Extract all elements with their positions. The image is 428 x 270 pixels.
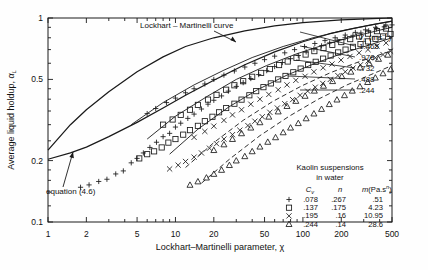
marker-plus — [191, 86, 196, 91]
marker-cross — [191, 135, 196, 140]
marker-triangle — [302, 93, 308, 98]
marker-plus — [286, 197, 291, 202]
legend-row: .244.1428.6 — [286, 220, 383, 229]
y-tick-label: 0.1 — [31, 217, 43, 227]
x-tick-label: 10 — [171, 229, 181, 239]
marker-cross — [207, 146, 212, 151]
chart-figure: 125102050100200500 0.10.20.51 Lockhart –… — [0, 0, 428, 270]
marker-plus — [264, 68, 269, 73]
marker-square — [166, 140, 171, 145]
marker-cross — [199, 150, 204, 155]
marker-cross — [260, 114, 265, 119]
marker-cross — [297, 93, 302, 98]
legend-title-line1: Kaolin suspensions — [296, 163, 363, 172]
marker-plus — [272, 54, 277, 59]
x-tick-label: 5 — [135, 229, 140, 239]
velocity-labels: VL (ms−1)1.465.976.732.488.244 — [358, 32, 391, 95]
y-tick-label: 1 — [38, 13, 43, 23]
annotation-arrow-head — [231, 37, 237, 42]
lockhart-martinelli-curve-label: Lockhart – Martinelli curve — [140, 21, 234, 30]
marker-plus — [154, 140, 159, 145]
marker-triangle — [303, 115, 309, 120]
marker-square — [159, 145, 164, 150]
marker-square — [145, 152, 150, 157]
marker-cross — [202, 129, 207, 134]
marker-plus — [389, 22, 394, 27]
marker-cross — [214, 141, 219, 146]
marker-cross — [167, 166, 172, 171]
marker-plus — [219, 93, 224, 98]
marker-cross — [248, 102, 253, 107]
marker-cross — [302, 74, 307, 79]
x-tick-label: 1 — [46, 229, 51, 239]
marker-plus — [167, 131, 172, 136]
marker-plus — [292, 47, 297, 52]
marker-triangle — [233, 158, 239, 163]
marker-triangle — [288, 125, 294, 130]
marker-square — [181, 132, 186, 137]
marker-plus — [282, 50, 287, 55]
reference-curve — [48, 18, 392, 150]
velocity-label: 1.465 — [359, 42, 380, 51]
marker-triangle — [334, 97, 340, 102]
marker-triangle — [265, 139, 271, 144]
legend-n-value: .14 — [335, 220, 346, 229]
marker-plus — [241, 80, 246, 85]
marker-plus — [185, 116, 190, 121]
marker-cross — [284, 82, 289, 87]
x-tick-labels: 125102050100200500 — [46, 229, 400, 239]
marker-cross — [221, 118, 226, 123]
marker-cross — [286, 213, 291, 218]
marker-square — [285, 59, 290, 64]
velocity-label: .976 — [359, 53, 375, 62]
marker-plus — [312, 41, 317, 46]
equation-46-label: equation (4.6) — [46, 187, 96, 196]
marker-triangle — [248, 125, 254, 130]
marker-triangle — [257, 119, 263, 124]
y-tick-labels: 0.10.20.51 — [31, 13, 43, 227]
marker-triangle — [249, 148, 255, 153]
x-tick-label: 2 — [84, 229, 89, 239]
marker-square — [173, 136, 178, 141]
velocity-label: .244 — [359, 86, 375, 95]
marker-triangle — [388, 66, 394, 71]
marker-cross — [252, 119, 257, 124]
velocity-label: .488 — [359, 75, 375, 84]
legend: Kaolin suspensionsin waterCvnm(Pa.sn).07… — [286, 163, 392, 229]
marker-triangle — [273, 134, 279, 139]
marker-triangle — [219, 167, 225, 172]
marker-cross — [276, 87, 281, 92]
marker-square — [303, 52, 308, 57]
marker-cross — [338, 57, 343, 62]
marker-triangle — [280, 129, 286, 134]
marker-cross — [183, 159, 188, 164]
marker-plus — [173, 124, 178, 129]
holdup-vs-lockhart-martinelli-chart: 125102050100200500 0.10.20.51 Lockhart –… — [0, 0, 428, 270]
marker-plus — [248, 76, 253, 81]
marker-triangle — [342, 92, 348, 97]
marker-cross — [329, 61, 334, 66]
legend-title-line2: in water — [316, 173, 344, 182]
marker-plus — [113, 171, 118, 176]
marker-triangle — [239, 130, 245, 135]
marker-triangle — [326, 101, 332, 106]
legend-header-m: m(Pa.sn) — [362, 184, 392, 194]
marker-triangle — [320, 83, 326, 88]
x-tick-label: 500 — [385, 229, 399, 239]
marker-cross — [191, 155, 196, 160]
y-tick-label: 0.5 — [31, 74, 43, 84]
marker-cross — [230, 112, 235, 117]
marker-triangle — [226, 162, 232, 167]
marker-triangle — [349, 88, 355, 93]
marker-plus — [262, 57, 267, 62]
marker-triangle — [266, 114, 272, 119]
marker-triangle — [211, 171, 217, 176]
legend-header-n: n — [338, 185, 342, 194]
plot-annotations: Lockhart – Martinelli curveequation (4.6… — [46, 21, 236, 196]
x-tick-label: 200 — [334, 229, 348, 239]
marker-triangle — [242, 153, 248, 158]
marker-plus — [141, 150, 146, 155]
marker-plus — [121, 168, 126, 173]
marker-triangle — [311, 111, 317, 116]
marker-plus — [96, 179, 101, 184]
